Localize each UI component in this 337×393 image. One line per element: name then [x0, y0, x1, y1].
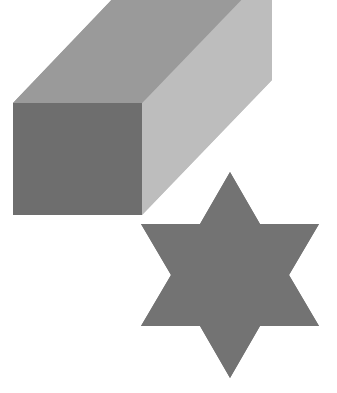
image-canvas — [0, 0, 337, 393]
geometric-figure — [0, 0, 337, 393]
cube-left-face-fill — [13, 103, 142, 215]
